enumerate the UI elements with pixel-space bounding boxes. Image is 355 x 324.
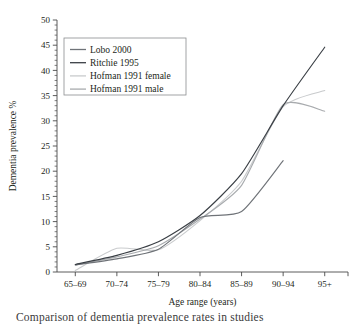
y-axis-title: Dementia prevalence %: [8, 101, 18, 192]
y-tick-label: 50: [41, 15, 51, 25]
y-tick-label: 30: [41, 116, 51, 126]
legend-label: Hofman 1991 female: [90, 71, 171, 81]
x-tick-label: 70–74: [106, 279, 129, 289]
x-tick-label: 65–69: [64, 279, 87, 289]
legend-label: Hofman 1991 male: [90, 84, 163, 94]
y-tick-label: 20: [41, 166, 51, 176]
legend-label: Lobo 2000: [90, 45, 132, 55]
y-tick-label: 25: [41, 141, 51, 151]
dementia-prevalence-line-chart: 05101520253035404550 65–6970–7475–7980–8…: [0, 0, 355, 324]
x-tick-label: 85–89: [230, 279, 253, 289]
legend: Lobo 2000Ritchie 1995Hofman 1991 femaleH…: [64, 38, 186, 95]
y-tick-label: 40: [41, 66, 51, 76]
y-tick-label: 35: [41, 91, 51, 101]
legend-label: Ritchie 1995: [90, 58, 139, 68]
y-tick-label: 0: [46, 267, 51, 277]
x-tick-label: 95+: [318, 279, 332, 289]
figure-container: 05101520253035404550 65–6970–7475–7980–8…: [0, 0, 355, 324]
y-tick-label: 15: [41, 192, 51, 202]
x-axis-title: Age range (years): [168, 297, 236, 308]
figure-caption-text: Comparison of dementia prevalence rates …: [0, 311, 355, 323]
x-tick-label: 80–84: [189, 279, 212, 289]
y-tick-label: 45: [41, 40, 51, 50]
x-tick-label: 90–94: [272, 279, 295, 289]
y-tick-label: 10: [41, 217, 51, 227]
figure-caption-clipped: Comparison of dementia prevalence rates …: [0, 311, 355, 324]
x-tick-label: 75–79: [147, 279, 170, 289]
y-tick-label: 5: [46, 242, 51, 252]
